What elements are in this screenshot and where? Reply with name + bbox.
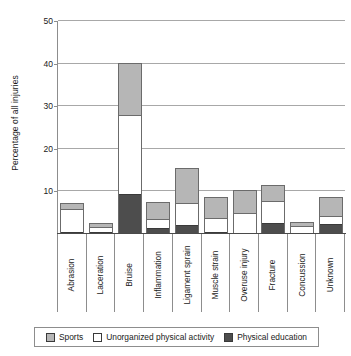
bar-slot <box>230 21 259 234</box>
y-tick-label-20: 20 <box>44 144 53 154</box>
category-label-text: Fracture <box>268 260 278 291</box>
unorganized-segment <box>61 209 83 232</box>
legend-item[interactable]: Sports <box>46 332 83 342</box>
legend-label: Unorganized physical activity <box>106 332 214 342</box>
unorganized-segment <box>234 213 256 233</box>
legend-item[interactable]: Physical education <box>224 332 307 342</box>
unorganized-segment <box>176 203 198 224</box>
sports-segment <box>147 203 169 218</box>
category-label-unknown: Unknown <box>315 234 345 312</box>
bar-slot <box>87 21 116 234</box>
sports-swatch-icon <box>46 333 55 342</box>
bar-group <box>58 21 345 234</box>
unorganized-swatch-icon <box>93 333 102 342</box>
category-label-text: Laceration <box>96 256 106 295</box>
y-tick-label-50: 50 <box>44 16 53 26</box>
sports-segment <box>119 64 141 115</box>
bar-slot <box>202 21 231 234</box>
category-label-text: Inflammation <box>153 251 163 299</box>
bar-abrasion[interactable] <box>60 203 84 234</box>
category-label-concussion: Concussion <box>287 234 316 312</box>
sports-segment <box>234 191 256 213</box>
bar-slot <box>259 21 288 234</box>
sports-segment <box>262 186 284 200</box>
unorganized-segment <box>147 219 169 228</box>
bar-slot <box>316 21 345 234</box>
category-label-inflammation: Inflammation <box>143 234 172 312</box>
category-label-text: Bruise <box>124 263 134 287</box>
bar-ligament-sprain[interactable] <box>175 168 199 234</box>
unorganized-segment <box>320 216 342 224</box>
category-label-fracture: Fracture <box>258 234 287 312</box>
category-label-abrasion: Abrasion <box>57 234 86 312</box>
category-label-text: Overuse injury <box>239 248 249 302</box>
unorganized-segment <box>262 201 284 224</box>
sports-segment <box>320 198 342 215</box>
stacked-bar-chart-figure: Percentage of all injuries 1020304050 Ab… <box>0 0 351 356</box>
bar-bruise[interactable] <box>118 63 142 234</box>
category-label-text: Muscle strain <box>210 251 220 300</box>
category-label-text: Ligament sprain <box>182 245 192 304</box>
physical-education-swatch-icon <box>224 333 233 342</box>
unorganized-segment <box>119 115 141 194</box>
x-axis-category-labels: AbrasionLacerationBruiseInflammationLiga… <box>57 234 345 312</box>
y-axis-title-text: Percentage of all injuries <box>10 75 20 171</box>
bar-unknown[interactable] <box>319 197 343 234</box>
category-label-laceration: Laceration <box>86 234 115 312</box>
chart-legend: SportsUnorganized physical activityPhysi… <box>34 327 319 347</box>
bar-fracture[interactable] <box>261 185 285 234</box>
category-label-text: Unknown <box>325 258 335 293</box>
bar-overuse-injury[interactable] <box>233 190 257 234</box>
sports-segment <box>205 198 227 218</box>
legend-label: Physical education <box>237 332 307 342</box>
bar-slot <box>173 21 202 234</box>
bar-slot <box>115 21 144 234</box>
category-label-overuse-injury: Overuse injury <box>229 234 258 312</box>
category-label-text: Abrasion <box>67 259 77 292</box>
bar-muscle-strain[interactable] <box>204 197 228 234</box>
category-label-muscle-strain: Muscle strain <box>201 234 230 312</box>
unorganized-segment <box>205 218 227 232</box>
sports-segment <box>176 169 198 203</box>
unorganized-segment <box>291 226 313 233</box>
category-label-text: Concussion <box>296 253 306 296</box>
physical-education-segment <box>119 194 141 234</box>
y-tick-label-30: 30 <box>44 101 53 111</box>
bar-slot <box>144 21 173 234</box>
bar-inflammation[interactable] <box>146 202 170 234</box>
legend-item[interactable]: Unorganized physical activity <box>93 332 214 342</box>
legend-label: Sports <box>59 332 83 342</box>
category-label-ligament-sprain: Ligament sprain <box>172 234 201 312</box>
category-label-bruise: Bruise <box>114 234 143 312</box>
y-axis-title: Percentage of all injuries <box>6 18 24 228</box>
bar-slot <box>58 21 87 234</box>
plot-area: 1020304050 <box>57 21 345 234</box>
bar-slot <box>288 21 317 234</box>
y-tick-label-40: 40 <box>44 59 53 69</box>
y-tick-label-10: 10 <box>44 186 53 196</box>
